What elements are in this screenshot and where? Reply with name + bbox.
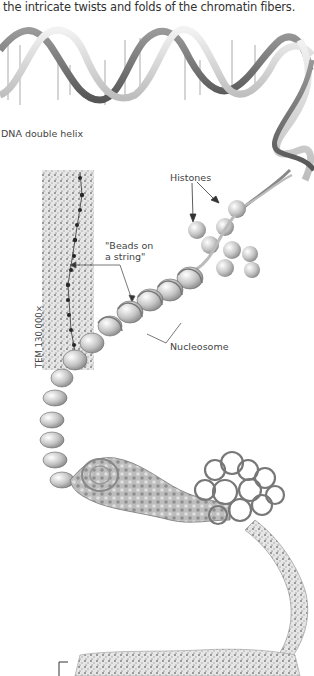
- beads-on-a-string-label-line1: "Beads on: [105, 240, 153, 251]
- looped-domains: [195, 452, 284, 524]
- bottom-bracket: [59, 662, 68, 676]
- histones-label: Histones: [170, 172, 211, 183]
- nucleosome-bracket: [147, 323, 181, 343]
- histone-pointers: [190, 182, 219, 222]
- dna-double-helix-label: DNA double helix: [1, 128, 83, 139]
- nucleosome-label: Nucleosome: [170, 341, 229, 352]
- beads-on-a-string-label-line2: a string": [105, 251, 145, 262]
- chromatin-illustration: [0, 0, 314, 676]
- tem-magnification-label: TEM 130,000×: [34, 305, 44, 368]
- condensed-chromatin: [75, 520, 308, 676]
